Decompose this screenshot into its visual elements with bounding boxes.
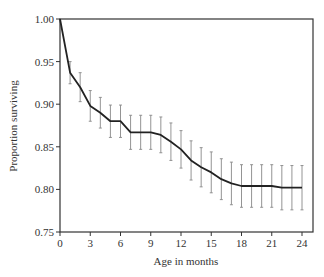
y-axis-label: Proportion surviving bbox=[7, 80, 19, 172]
y-tick-label: 0.90 bbox=[35, 98, 55, 110]
x-tick-label: 3 bbox=[88, 237, 94, 249]
y-tick-label: 0.85 bbox=[35, 141, 55, 153]
x-tick-label: 18 bbox=[236, 237, 248, 249]
x-tick-label: 21 bbox=[266, 237, 277, 249]
x-tick-label: 15 bbox=[206, 237, 218, 249]
y-tick-label: 0.75 bbox=[35, 226, 55, 238]
y-tick-label: 1.00 bbox=[35, 13, 55, 25]
x-tick-label: 0 bbox=[57, 237, 63, 249]
x-axis-label: Age in months bbox=[154, 255, 219, 267]
axes: 0.750.800.850.900.951.0003691215182124 bbox=[35, 13, 313, 249]
y-tick-label: 0.80 bbox=[35, 183, 55, 195]
error-bars bbox=[69, 62, 304, 210]
x-tick-label: 9 bbox=[148, 237, 154, 249]
x-tick-label: 6 bbox=[118, 237, 124, 249]
chart-canvas: 0.750.800.850.900.951.0003691215182124 A… bbox=[0, 0, 324, 277]
plot-frame bbox=[60, 19, 313, 232]
x-tick-label: 12 bbox=[176, 237, 187, 249]
x-tick-label: 24 bbox=[297, 237, 309, 249]
y-tick-label: 0.95 bbox=[35, 56, 55, 68]
survival-chart: 0.750.800.850.900.951.0003691215182124 A… bbox=[0, 0, 324, 277]
